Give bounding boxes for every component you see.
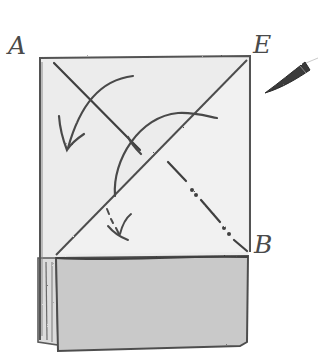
- label-point-a: A: [8, 33, 26, 58]
- origami-diagram: [0, 0, 321, 360]
- label-point-b: B: [254, 232, 272, 257]
- bottom-flap: [56, 256, 248, 351]
- label-point-e: E: [253, 32, 271, 57]
- pencil-tip-icon: [265, 58, 318, 93]
